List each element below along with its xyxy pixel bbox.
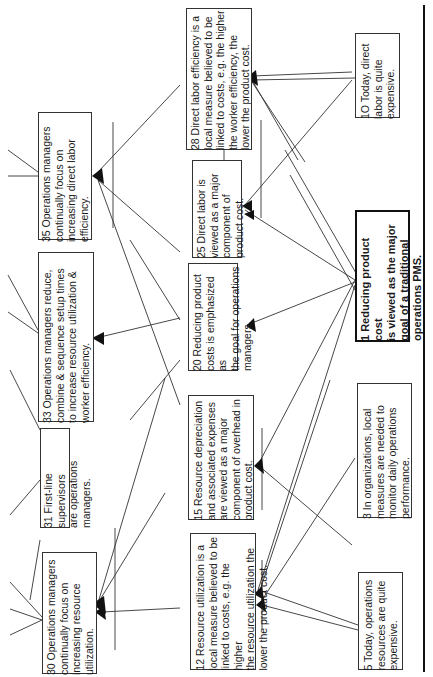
node-25: 25 Direct labor is viewed as a major com… bbox=[192, 160, 242, 258]
node-3-text: 3 In organizations, local measures are n… bbox=[361, 386, 414, 519]
node-10: 1O Today, direct labor is quite expensiv… bbox=[355, 33, 400, 118]
node-5-text: 5 Today, operations resources are quite … bbox=[361, 575, 404, 671]
node-35: 35 Operations managers continually focus… bbox=[38, 112, 92, 240]
node-5: 5 Today, operations resources are quite … bbox=[358, 572, 403, 670]
node-30: 30 Operations managers continually focus… bbox=[42, 552, 97, 674]
node-28-text: 28 Direct labor efficiency is a local me… bbox=[189, 10, 253, 150]
node-12-text: 12 Resource utilization is a local measu… bbox=[194, 535, 258, 670]
node-30-text: 30 Operations managers continually focus… bbox=[45, 555, 99, 675]
node-1-root-cause: 1 Reducing product cost is viewed as the… bbox=[355, 210, 410, 342]
node-25-text: 25 Direct labor is viewed as a major com… bbox=[195, 162, 243, 258]
node-31: 31 First-line supervisors are operations… bbox=[40, 428, 70, 528]
node-33-text: 33 Operations managers reduce, combine &… bbox=[41, 255, 95, 423]
node-15: 15 Resource depreciation and associated … bbox=[188, 395, 254, 520]
node-12: 12 Resource utilization is a local measu… bbox=[190, 533, 256, 670]
node-31-text: 31 First-line supervisors are operations… bbox=[42, 430, 70, 528]
node-10-text: 1O Today, direct labor is quite expensiv… bbox=[359, 36, 402, 119]
node-33: 33 Operations managers reduce, combine &… bbox=[38, 252, 94, 422]
node-15-text: 15 Resource depreciation and associated … bbox=[192, 397, 256, 520]
node-3: 3 In organizations, local measures are n… bbox=[357, 383, 412, 518]
node-35-text: 35 Operations managers continually focus… bbox=[40, 114, 94, 242]
node-20-text: 20 Reducing product costs is emphasized … bbox=[191, 265, 239, 371]
node-28: 28 Direct labor efficiency is a local me… bbox=[186, 8, 252, 150]
node-1-text: 1 Reducing product cost is viewed as the… bbox=[359, 213, 411, 341]
node-20: 20 Reducing product costs is emphasized … bbox=[188, 263, 238, 371]
